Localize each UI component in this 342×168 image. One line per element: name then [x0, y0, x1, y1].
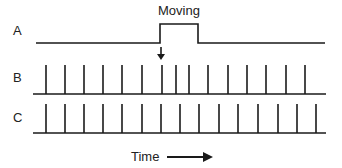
- step-trace-a: [36, 24, 325, 43]
- down-arrow-icon: [157, 47, 165, 60]
- row-label-b: B: [13, 70, 22, 85]
- spike-timing-diagram: A B C Moving Time: [0, 0, 342, 168]
- row-label-a: A: [13, 23, 22, 38]
- moving-label: Moving: [158, 3, 200, 18]
- row-label-c: C: [13, 110, 22, 125]
- time-axis-label: Time: [131, 149, 159, 164]
- spike-train-b: [33, 65, 326, 94]
- right-arrow-icon: [167, 152, 213, 162]
- spike-train-c: [33, 104, 326, 133]
